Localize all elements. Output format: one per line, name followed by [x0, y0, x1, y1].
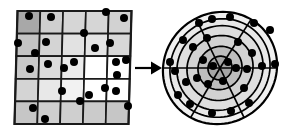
figure-canvas — [0, 0, 294, 137]
polar-sample-point-12 — [171, 67, 179, 75]
polar-sample-point-19 — [271, 60, 279, 68]
grid-cell-r1-c1 — [39, 34, 62, 57]
polar-sample-point-21 — [193, 74, 201, 82]
polar-sample-point-16 — [232, 64, 240, 72]
cartesian-grid-panel — [14, 8, 132, 124]
polar-sample-point-5 — [266, 26, 274, 34]
sample-point-22 — [76, 97, 84, 105]
polar-sample-point-24 — [240, 84, 248, 92]
polar-sample-point-23 — [219, 77, 227, 85]
polar-sample-point-11 — [166, 58, 174, 66]
polar-sample-point-28 — [227, 107, 235, 115]
sample-point-14 — [60, 64, 68, 72]
polar-sample-point-17 — [243, 65, 251, 73]
sample-point-21 — [112, 87, 120, 95]
sample-point-16 — [122, 56, 130, 64]
grid-cell-r2-c3 — [84, 56, 107, 79]
sample-point-2 — [47, 13, 55, 21]
sample-point-8 — [106, 39, 114, 47]
sample-point-5 — [14, 39, 22, 47]
sample-point-15 — [112, 58, 120, 66]
sample-point-12 — [44, 60, 52, 68]
polar-sample-point-6 — [179, 36, 187, 44]
polar-sample-point-1 — [195, 19, 203, 27]
polar-sample-point-8 — [203, 34, 211, 42]
polar-sample-point-27 — [208, 109, 216, 117]
polar-sample-point-20 — [182, 78, 190, 86]
sample-point-11 — [26, 65, 34, 73]
polar-sample-point-4 — [250, 19, 258, 27]
polar-sample-point-7 — [189, 43, 197, 51]
sample-point-7 — [80, 29, 88, 37]
polar-sample-point-18 — [258, 62, 266, 70]
polar-sample-point-10 — [248, 49, 256, 57]
sample-point-1 — [25, 12, 33, 20]
sample-point-6 — [42, 38, 50, 46]
sample-point-23 — [29, 104, 37, 112]
grid-cell-r4-c1 — [37, 101, 60, 124]
polar-sample-point-25 — [174, 91, 182, 99]
sample-point-19 — [85, 91, 93, 99]
polar-sample-point-2 — [208, 15, 216, 23]
sample-point-13 — [70, 58, 78, 66]
polar-sample-point-26 — [186, 100, 194, 108]
grid-cell-r1-c2 — [62, 34, 85, 57]
polar-sample-point-29 — [245, 99, 253, 107]
sample-point-17 — [113, 71, 121, 79]
polar-sample-point-3 — [226, 13, 234, 21]
polar-sample-point-15 — [224, 58, 232, 66]
sample-point-10 — [31, 49, 39, 57]
grid-cell-r3-c1 — [38, 79, 61, 102]
polar-sample-point-13 — [199, 56, 207, 64]
sample-point-24 — [41, 115, 49, 123]
polar-sample-point-9 — [234, 38, 242, 46]
sample-point-20 — [101, 84, 109, 92]
sample-point-25 — [124, 102, 132, 110]
sample-point-3 — [102, 8, 110, 16]
sample-point-4 — [120, 14, 128, 22]
grid-cell-r2-c1 — [39, 56, 62, 79]
polar-sample-point-22 — [204, 80, 212, 88]
grid-cell-r4-c3 — [83, 101, 106, 124]
sample-point-9 — [91, 44, 99, 52]
grid-cell-r0-c4 — [108, 11, 131, 34]
sample-point-18 — [58, 87, 66, 95]
shape-context-figure: Cartesian grid to log-polar shape-contex… — [0, 0, 294, 137]
grid-cell-r3-c0 — [15, 79, 38, 102]
polar-sample-point-14 — [209, 62, 217, 70]
